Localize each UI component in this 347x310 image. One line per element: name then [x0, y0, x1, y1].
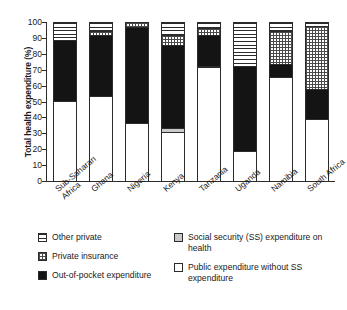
bar-segment-public [233, 152, 257, 181]
y-tick-mark-10 [42, 165, 47, 166]
legend-item: Other private [38, 232, 168, 243]
y-tick-mark-100 [42, 22, 47, 23]
legend-swatch-plain-white [174, 263, 183, 272]
bar-segment-private_insurance [197, 29, 221, 35]
bar-segment-out_of_pocket [305, 90, 329, 120]
y-tick-label-70: 70 [14, 65, 42, 74]
bar-segment-public [161, 133, 185, 181]
bar-segment-public [269, 78, 293, 181]
y-tick-label-30: 30 [14, 129, 42, 138]
bar-segment-private_insurance [305, 27, 329, 90]
bar-stack [53, 22, 77, 181]
legend-swatch-light-grey [174, 233, 183, 242]
bar-segment-out_of_pocket [89, 36, 113, 96]
bar-segment-ss [197, 67, 221, 69]
x-axis-line [46, 181, 335, 182]
bar-group [233, 22, 257, 181]
bar-segment-private_insurance [269, 32, 293, 65]
y-tick-mark-20 [42, 149, 47, 150]
legend-item: Private insurance [38, 251, 168, 262]
bar-stack [233, 22, 257, 181]
y-tick-label-100: 100 [14, 18, 42, 27]
legend-item: Out-of-pocket expenditure [38, 270, 168, 281]
y-tick-label-60: 60 [14, 81, 42, 90]
y-tick-label-50: 50 [14, 97, 42, 106]
legend-item: Social security (SS) expenditure on heal… [174, 232, 344, 254]
y-tick-label-0: 0 [14, 177, 42, 186]
y-tick-mark-30 [42, 133, 47, 134]
bar-segment-out_of_pocket [233, 67, 257, 151]
y-tick-mark-70 [42, 70, 47, 71]
bar-group [305, 22, 329, 181]
bar-segment-public [305, 120, 329, 181]
bar-group [269, 22, 293, 181]
legend-column-left: Other privatePrivate insuranceOut-of-poc… [38, 232, 168, 289]
legend-label: Out-of-pocket expenditure [52, 270, 151, 281]
bar-segment-other_private [305, 22, 329, 27]
y-tick-label-10: 10 [14, 161, 42, 170]
y-tick-label-40: 40 [14, 113, 42, 122]
bar-stack [89, 22, 113, 181]
bar-segment-public [197, 68, 221, 181]
bar-segment-other_private [269, 22, 293, 32]
plot-area [47, 22, 335, 181]
bar-segment-ss [161, 129, 185, 134]
bar-group [161, 22, 185, 181]
bar-group [125, 22, 149, 181]
bar-group [53, 22, 77, 181]
bar-stack [161, 22, 185, 181]
y-tick-label-80: 80 [14, 50, 42, 59]
bar-segment-other_private [233, 22, 257, 67]
y-tick-mark-60 [42, 86, 47, 87]
bar-stack [305, 22, 329, 181]
bar-segment-other_private [161, 22, 185, 36]
y-tick-mark-0 [42, 181, 47, 182]
legend-label: Social security (SS) expenditure on heal… [188, 232, 344, 254]
bar-segment-private_insurance [89, 32, 113, 37]
bar-segment-public [89, 97, 113, 181]
bar-segment-other_private [197, 22, 221, 29]
bar-group [197, 22, 221, 181]
legend-column-right: Social security (SS) expenditure on heal… [174, 232, 344, 292]
bar-group [89, 22, 113, 181]
legend-swatch-horizontal-stripes [38, 233, 47, 242]
bar-stack [197, 22, 221, 181]
legend-label: Public expenditure without SS expenditur… [188, 262, 344, 284]
bar-stack [125, 22, 149, 181]
y-tick-mark-90 [42, 38, 47, 39]
bar-segment-public [53, 102, 77, 182]
y-tick-mark-80 [42, 54, 47, 55]
bar-segment-out_of_pocket [125, 28, 149, 124]
bar-segment-out_of_pocket [161, 46, 185, 129]
legend-swatch-checker [38, 252, 47, 261]
stacked-bar-chart: Total health expenditure (%) 01020304050… [0, 0, 347, 310]
y-tick-mark-50 [42, 102, 47, 103]
legend-label: Other private [52, 232, 102, 243]
bar-stack [269, 22, 293, 181]
bar-segment-private_insurance [161, 36, 185, 46]
legend-label: Private insurance [52, 251, 118, 262]
bar-segment-private_insurance [125, 22, 149, 28]
bar-segment-out_of_pocket [197, 36, 221, 67]
bar-segment-out_of_pocket [53, 41, 77, 101]
legend-item: Public expenditure without SS expenditur… [174, 262, 344, 284]
bar-segment-other_private [53, 22, 77, 41]
y-tick-label-90: 90 [14, 34, 42, 43]
bar-segment-other_private [89, 22, 113, 32]
y-tick-mark-40 [42, 117, 47, 118]
y-tick-label-20: 20 [14, 145, 42, 154]
y-axis-tick-labels: 0102030405060708090100 [14, 16, 42, 188]
bar-segment-public [125, 124, 149, 181]
bar-segment-out_of_pocket [269, 65, 293, 78]
legend-swatch-solid-black [38, 271, 47, 280]
